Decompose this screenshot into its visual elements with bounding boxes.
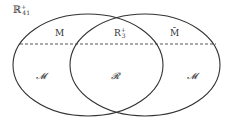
label-script-m-right: 𝓜: [187, 71, 200, 81]
right-ellipse: [70, 14, 220, 116]
label-script-m-left: 𝓜: [36, 71, 49, 81]
label-m: M: [55, 28, 64, 38]
label-r3-plus: R+3: [114, 26, 126, 39]
label-script-r: 𝓡: [111, 71, 121, 81]
corner-label: ℝ+41: [13, 3, 30, 16]
label-m-bar: M̄: [170, 27, 179, 38]
left-ellipse: [13, 14, 163, 116]
venn-diagram: ℝ+41 M R+3 M̄ 𝓜 𝓡 𝓜: [0, 0, 231, 125]
